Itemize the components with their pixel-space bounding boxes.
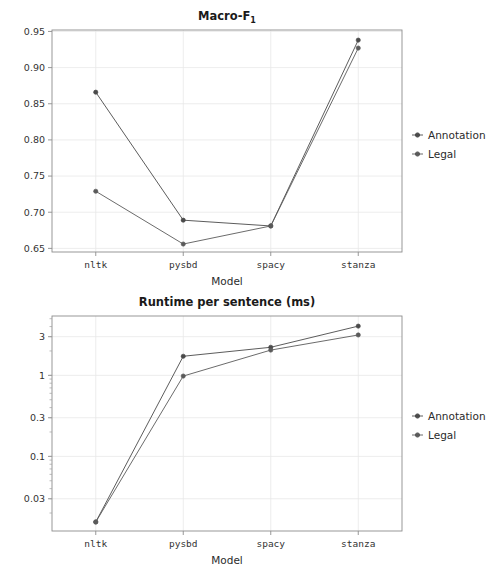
runtime-xticks: nltkpysbdspacystanza — [84, 531, 375, 549]
runtime-point — [181, 354, 185, 358]
macro-f1-title-group: Macro-F1 — [198, 9, 256, 25]
macro-f1-point — [356, 46, 360, 50]
macro-f1-point — [94, 90, 98, 94]
runtime-title: Runtime per sentence (ms) — [139, 295, 315, 309]
runtime-svg: Runtime per sentence (ms) 0.030.10.313 n… — [0, 286, 501, 569]
macro-f1-ytick-label: 0.95 — [24, 26, 45, 37]
macro-f1-ytick-label: 0.65 — [24, 243, 45, 254]
runtime-grid — [52, 316, 402, 531]
runtime-legend[interactable]: AnnotationLegal — [412, 410, 486, 441]
runtime-ytick-label: 3 — [39, 331, 45, 342]
runtime-point — [94, 520, 98, 524]
runtime-xtick-stanza: stanza — [341, 538, 375, 549]
macro-f1-legend-swatch-marker — [415, 133, 419, 137]
macro-f1-yticks: 0.650.700.750.800.850.900.95 — [24, 26, 52, 254]
macro-f1-ytick-label: 0.85 — [24, 98, 45, 109]
macro-f1-point — [356, 38, 360, 42]
runtime-point — [269, 348, 273, 352]
macro-f1-title: Macro-F1 — [198, 9, 256, 25]
runtime-ytick-label: 0.3 — [30, 412, 45, 423]
runtime-legend-label-annotation[interactable]: Annotation — [428, 410, 486, 422]
runtime-point — [181, 374, 185, 378]
runtime-ytick-label: 1 — [39, 370, 45, 381]
runtime-xaxis-label: Model — [211, 554, 243, 566]
runtime-line-legal — [96, 335, 359, 522]
runtime-ytick-label: 0.1 — [30, 451, 45, 462]
runtime-point — [356, 324, 360, 328]
macro-f1-legend[interactable]: AnnotationLegal — [412, 129, 486, 160]
macro-f1-xtick-spacy: spacy — [256, 259, 285, 270]
macro-f1-point — [181, 218, 185, 222]
macro-f1-legend-swatch-marker — [415, 152, 419, 156]
macro-f1-legend-label-annotation[interactable]: Annotation — [428, 129, 486, 141]
macro-f1-svg: Macro-F1 0.650.700.750.800.850.900.95 nl… — [0, 0, 501, 290]
runtime-legend-swatch-marker — [415, 414, 419, 418]
macro-f1-ytick-label: 0.70 — [24, 207, 45, 218]
macro-f1-point — [181, 242, 185, 246]
macro-f1-grid — [52, 30, 402, 252]
macro-f1-xtick-pysbd: pysbd — [169, 259, 198, 270]
macro-f1-plot-frame — [52, 30, 402, 252]
runtime-line-annotation — [96, 326, 359, 522]
chart-macro-f1: Macro-F1 0.650.700.750.800.850.900.95 nl… — [0, 0, 501, 290]
macro-f1-xticks: nltkpysbdspacystanza — [84, 252, 375, 270]
macro-f1-xtick-nltk: nltk — [84, 259, 107, 270]
runtime-xtick-nltk: nltk — [84, 538, 107, 549]
chart-runtime: Runtime per sentence (ms) 0.030.10.313 n… — [0, 286, 501, 569]
macro-f1-ytick-label: 0.80 — [24, 134, 45, 145]
macro-f1-legend-label-legal[interactable]: Legal — [428, 148, 456, 160]
runtime-series — [94, 324, 361, 524]
runtime-xtick-pysbd: pysbd — [169, 538, 198, 549]
macro-f1-ytick-label: 0.90 — [24, 62, 45, 73]
macro-f1-line-legal — [96, 48, 359, 244]
figure-canvas: Macro-F1 0.650.700.750.800.850.900.95 nl… — [0, 0, 501, 569]
macro-f1-point — [269, 224, 273, 228]
macro-f1-series — [94, 38, 361, 246]
macro-f1-ytick-label: 0.75 — [24, 170, 45, 181]
runtime-xtick-spacy: spacy — [256, 538, 285, 549]
runtime-point — [356, 333, 360, 337]
macro-f1-xtick-stanza: stanza — [341, 259, 375, 270]
runtime-legend-label-legal[interactable]: Legal — [428, 429, 456, 441]
runtime-yticks: 0.030.10.313 — [24, 319, 52, 513]
runtime-legend-swatch-marker — [415, 433, 419, 437]
runtime-ytick-label: 0.03 — [24, 493, 45, 504]
macro-f1-point — [94, 189, 98, 193]
